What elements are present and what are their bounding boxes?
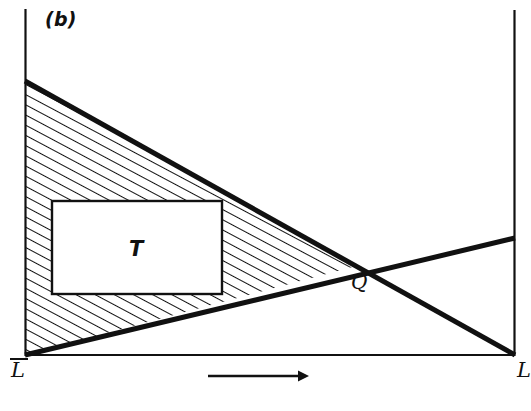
figure-panel-b: (b) T Q L L (0, 0, 531, 411)
figure-canvas (0, 0, 531, 411)
panel-label: (b) (45, 10, 77, 29)
axis-label-l-bar-text: L (11, 360, 25, 381)
point-label-q: Q (351, 272, 367, 292)
axis-label-l-bar: L (11, 360, 25, 381)
axis-label-l: L (517, 360, 531, 381)
region-label-t: T (129, 239, 143, 260)
